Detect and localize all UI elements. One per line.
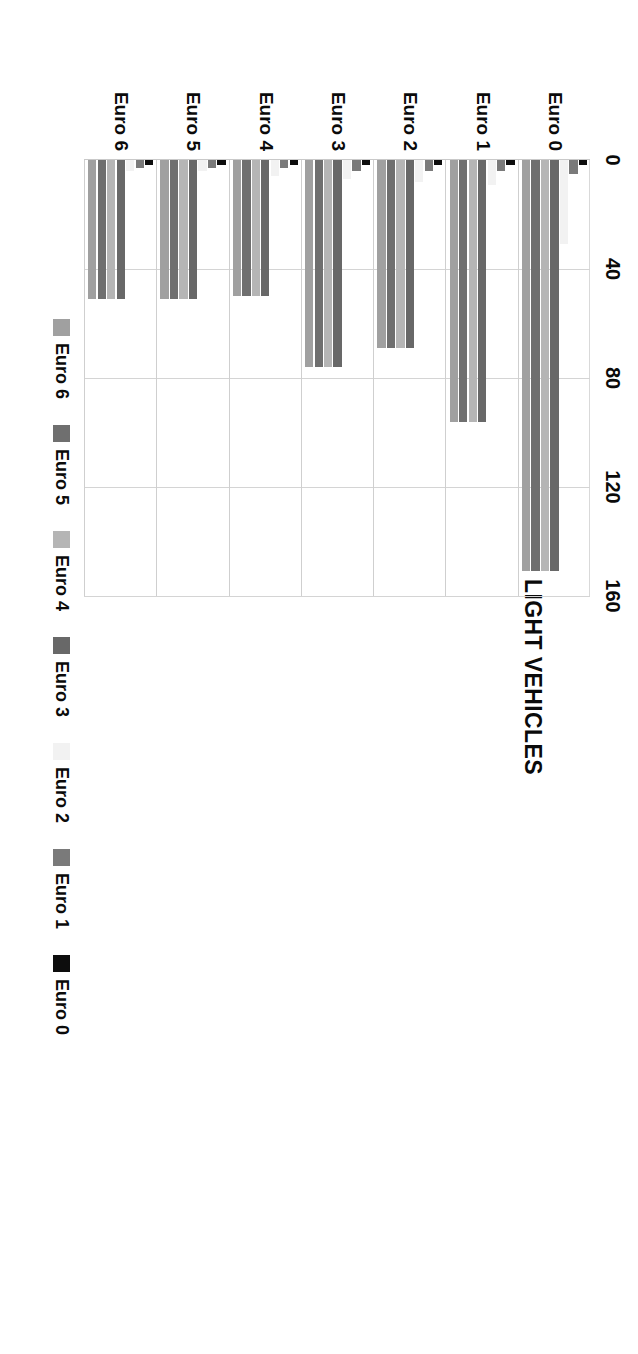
bar	[377, 160, 385, 348]
bar	[469, 160, 477, 422]
bar	[579, 160, 587, 165]
bar	[271, 160, 279, 176]
tick-label: 40	[601, 258, 624, 280]
bar	[343, 160, 351, 179]
bar	[506, 160, 514, 165]
legend-swatch	[53, 637, 70, 654]
category-label: Euro 1	[472, 31, 494, 160]
bar	[305, 160, 313, 367]
legend-swatch	[53, 955, 70, 972]
bar	[161, 160, 169, 299]
bar	[280, 160, 288, 168]
bar	[531, 160, 539, 571]
chart-figure: LIGHT VEHICLES HEAVY VEHICLES 0408012016…	[0, 0, 638, 1354]
bar	[198, 160, 206, 171]
legend-label: Euro 1	[51, 873, 72, 929]
bar	[415, 160, 423, 182]
legend-label: Euro 3	[51, 661, 72, 717]
gridline	[84, 596, 590, 597]
tick-label: 120	[601, 470, 624, 503]
bar	[107, 160, 115, 299]
bar	[290, 160, 298, 165]
legend-item[interactable]: Euro 6	[51, 319, 72, 399]
tick-label: 80	[601, 367, 624, 389]
category-label: Euro 5	[182, 31, 204, 160]
bar-group: Euro 5	[156, 160, 228, 596]
bar-group: Euro 4	[229, 160, 301, 596]
bar	[497, 160, 505, 171]
bar	[179, 160, 187, 299]
legend-label: Euro 0	[51, 979, 72, 1035]
category-label: Euro 4	[255, 31, 277, 160]
bar	[117, 160, 125, 299]
bar	[145, 160, 153, 165]
bar	[478, 160, 486, 422]
bar	[136, 160, 144, 168]
chart-title-text: LIGHT VEHICLES	[520, 579, 546, 775]
legend-swatch	[53, 531, 70, 548]
bar	[387, 160, 395, 348]
legend-item[interactable]: Euro 0	[51, 955, 72, 1035]
bar	[396, 160, 404, 348]
category-label: Euro 3	[327, 31, 349, 160]
legend-swatch	[53, 425, 70, 442]
bar	[242, 160, 250, 296]
bar	[425, 160, 433, 171]
bar	[324, 160, 332, 367]
bar	[560, 160, 568, 244]
bar	[522, 160, 530, 571]
bar	[98, 160, 106, 299]
legend-label: Euro 2	[51, 767, 72, 823]
plot-area: 04080120160 Euro 0Euro 1Euro 2Euro 3Euro…	[84, 159, 590, 596]
bar-group: Euro 6	[84, 160, 156, 596]
legend-item[interactable]: Euro 4	[51, 531, 72, 611]
bar	[352, 160, 360, 171]
bar	[550, 160, 558, 571]
bar-group: Euro 1	[445, 160, 517, 596]
legend: Euro 6Euro 5Euro 4Euro 3Euro 2Euro 1Euro…	[51, 0, 72, 1354]
legend-item[interactable]: Euro 1	[51, 849, 72, 929]
bar	[233, 160, 241, 296]
bar-group: Euro 0	[518, 160, 590, 596]
bar	[189, 160, 197, 299]
bar	[406, 160, 414, 348]
bar	[170, 160, 178, 299]
bar	[541, 160, 549, 571]
legend-label: Euro 6	[51, 343, 72, 399]
bar-group: Euro 2	[373, 160, 445, 596]
bar	[488, 160, 496, 185]
category-label: Euro 0	[544, 31, 566, 160]
bar	[333, 160, 341, 367]
legend-label: Euro 4	[51, 555, 72, 611]
legend-item[interactable]: Euro 3	[51, 637, 72, 717]
legend-item[interactable]: Euro 2	[51, 743, 72, 823]
bar	[362, 160, 370, 165]
rotated-figure-wrapper: LIGHT VEHICLES HEAVY VEHICLES 0408012016…	[0, 0, 638, 1354]
bar	[252, 160, 260, 296]
bar-group: Euro 3	[301, 160, 373, 596]
tick-label: 0	[601, 154, 624, 165]
bar	[217, 160, 225, 165]
tick-label: 160	[601, 579, 624, 612]
bar	[88, 160, 96, 299]
category-label: Euro 6	[110, 31, 132, 160]
bar	[569, 160, 577, 174]
bar	[450, 160, 458, 422]
legend-swatch	[53, 319, 70, 336]
bar	[208, 160, 216, 168]
bar	[315, 160, 323, 367]
bar	[261, 160, 269, 296]
legend-label: Euro 5	[51, 449, 72, 505]
bar	[459, 160, 467, 422]
category-label: Euro 2	[399, 31, 421, 160]
legend-swatch	[53, 743, 70, 760]
legend-swatch	[53, 849, 70, 866]
bar	[434, 160, 442, 165]
legend-item[interactable]: Euro 5	[51, 425, 72, 505]
bar	[126, 160, 134, 171]
